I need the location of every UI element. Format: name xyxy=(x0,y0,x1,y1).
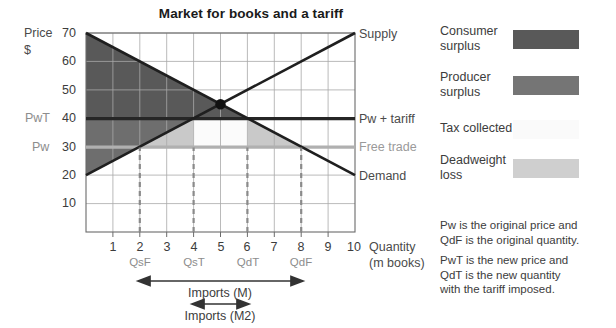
legend: Consumer surplus Producer surplus Tax co… xyxy=(440,24,610,187)
legend-item-deadweight-loss: Deadweight loss xyxy=(440,153,610,187)
y-tick-60: 60 xyxy=(58,54,80,68)
x-tick-1: 1 xyxy=(101,240,125,254)
y-tick-40: 40 xyxy=(58,111,80,125)
legend-item-producer-surplus: Producer surplus xyxy=(440,70,610,104)
x-axis-title: Quantity xyxy=(369,240,416,254)
legend-swatch-deadweight-loss xyxy=(513,159,579,178)
equilibrium-point xyxy=(215,99,225,109)
quantity-marker-qst: QsT xyxy=(177,256,211,268)
demand-curve-label: Demand xyxy=(359,169,406,183)
x-tick-10: 10 xyxy=(341,240,367,254)
y-axis-title: Price xyxy=(24,26,52,40)
x-tick-2: 2 xyxy=(128,240,152,254)
pwt-price-label: PwT xyxy=(25,111,50,125)
x-tick-4: 4 xyxy=(182,240,206,254)
x-tick-8: 8 xyxy=(289,240,313,254)
y-tick-30: 30 xyxy=(58,140,80,154)
imports-m2-label: Imports (M2) xyxy=(160,309,280,323)
note-tariff: PwT is the new price and QdT is the new … xyxy=(440,253,612,297)
x-axis-ticks xyxy=(113,232,328,237)
supply-curve-label: Supply xyxy=(359,27,397,41)
quantity-marker-qsf: QsF xyxy=(123,256,157,268)
x-tick-5: 5 xyxy=(209,240,233,254)
quantity-marker-qdt: QdT xyxy=(231,256,265,268)
legend-item-consumer-surplus: Consumer surplus xyxy=(440,24,610,58)
x-tick-9: 9 xyxy=(316,240,340,254)
pw-price-label: Pw xyxy=(32,140,49,154)
legend-swatch-producer-surplus xyxy=(513,76,579,95)
y-tick-20: 20 xyxy=(58,168,80,182)
x-axis-unit: (m books) xyxy=(369,256,425,270)
x-tick-6: 6 xyxy=(235,240,259,254)
legend-swatch-consumer-surplus xyxy=(513,30,579,49)
y-axis-unit: $ xyxy=(24,43,31,57)
imports-m-label: Imports (M) xyxy=(160,286,280,300)
imports-m-arrow xyxy=(138,276,303,285)
chart-figure: Market for books and a tariff xyxy=(0,0,616,328)
x-tick-3: 3 xyxy=(155,240,179,254)
x-tick-7: 7 xyxy=(262,240,286,254)
y-tick-70: 70 xyxy=(58,26,80,40)
free-trade-line-label: Free trade xyxy=(359,140,417,154)
imports-m2-arrow xyxy=(192,299,249,308)
y-tick-10: 10 xyxy=(58,196,80,210)
tariff-line-label: Pw + tariff xyxy=(359,112,415,126)
legend-swatch-tax-collected xyxy=(513,120,579,139)
y-tick-50: 50 xyxy=(58,83,80,97)
note-original: Pw is the original price and QdF is the … xyxy=(440,218,612,247)
quantity-marker-qdf: QdF xyxy=(284,256,318,268)
legend-item-tax-collected: Tax collected xyxy=(440,121,610,141)
